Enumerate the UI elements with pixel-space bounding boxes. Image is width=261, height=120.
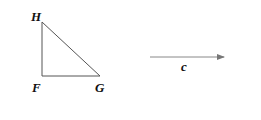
right-triangle	[42, 22, 100, 76]
vertex-label-f: F	[31, 80, 41, 95]
vertex-label-g: G	[95, 80, 105, 95]
diagram-canvas: H F G c	[0, 0, 261, 120]
vector-label-c: c	[181, 59, 187, 74]
vertex-label-h: H	[30, 9, 42, 24]
